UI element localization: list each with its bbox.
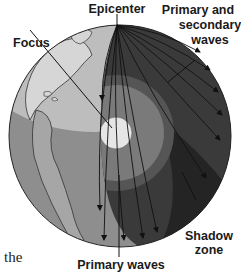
fragment-text: the [4,249,23,265]
label-shadow-zone-1: Shadow [185,229,233,243]
label-epicenter: Epicenter [89,2,146,16]
label-primary-secondary-2: secondary [179,18,241,32]
label-focus: Focus [13,36,50,50]
earth-seismic-diagram: Epicenter Focus Primary and secondary wa… [0,0,241,273]
label-primary-waves: Primary waves [77,258,165,272]
label-primary-secondary-3: waves [190,33,229,47]
label-primary-secondary-1: Primary and [162,3,234,17]
label-shadow-zone-2: zone [195,243,224,257]
